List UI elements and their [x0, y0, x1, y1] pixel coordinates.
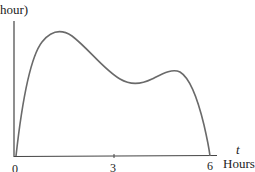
t-symbol: t [236, 143, 240, 156]
x-axis-label: Hours [223, 157, 255, 170]
x-tick-label-0: 0 [12, 163, 18, 172]
x-axis [14, 156, 217, 157]
chart-plot [0, 0, 255, 172]
y-axis-label: hour) [0, 3, 28, 16]
rate-curve [16, 32, 210, 156]
x-tick-label-3: 3 [110, 162, 116, 172]
x-tick-label-6: 6 [207, 160, 213, 172]
